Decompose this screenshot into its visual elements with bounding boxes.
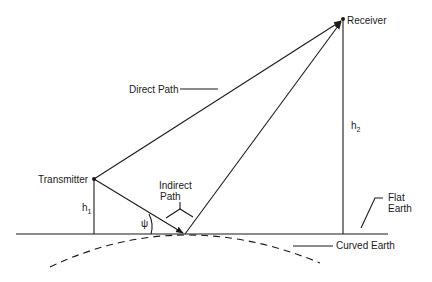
curved-earth-label: Curved Earth — [336, 240, 395, 251]
grazing-angle-label: ψ — [141, 218, 148, 229]
receiver-label: Receiver — [347, 15, 387, 26]
flat-earth-leader — [361, 198, 383, 228]
h2-label: h2 — [351, 120, 361, 133]
curved-earth-arc — [50, 235, 320, 267]
indirect-path-label-2: Path — [160, 191, 181, 202]
h1-label: h1 — [82, 202, 92, 215]
grazing-angle-arc — [149, 214, 152, 234]
transmitter-point — [92, 177, 96, 181]
receiver-point — [341, 17, 345, 21]
two-ray-diagram: Receiver Transmitter Direct Path Indirec… — [0, 0, 432, 282]
indirect-path-bracket — [166, 209, 193, 218]
flat-earth-label-2: Earth — [388, 203, 412, 214]
indirect-path-label-1: Indirect — [159, 180, 192, 191]
reflected-ray — [185, 22, 341, 234]
direct-path-label: Direct Path — [129, 84, 178, 95]
direct-path-ray — [94, 21, 341, 179]
transmitter-label: Transmitter — [38, 174, 89, 185]
flat-earth-label-1: Flat — [388, 192, 405, 203]
